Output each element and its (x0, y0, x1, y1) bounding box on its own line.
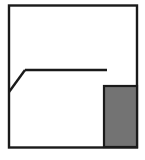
line-drawing-figure (0, 0, 145, 160)
tower-body (104, 86, 137, 147)
drawing-canvas (0, 0, 145, 160)
